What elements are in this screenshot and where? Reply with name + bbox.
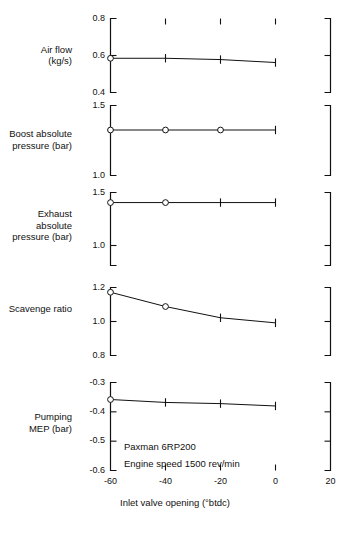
marker-exhaust-absolute-pressure-1	[163, 200, 169, 206]
ytick-label-pumping-mep-0: -0.6	[79, 465, 105, 475]
ytick-label-exhaust-absolute-pressure-0: 1.0	[79, 240, 105, 250]
ylabel-boost-absolute-pressure: Boost absolutepressure (bar)	[0, 128, 72, 151]
ylabel-exhaust-absolute-pressure: Exhaust absolutepressure (bar)	[0, 208, 72, 243]
ytick-label-scavenge-ratio-0: 0.8	[79, 350, 105, 360]
ylabel-pumping-mep: PumpingMEP (bar)	[0, 411, 72, 434]
ytick-label-exhaust-absolute-pressure-1: 1.5	[79, 187, 105, 197]
marker-boost-absolute-pressure-2	[218, 127, 224, 133]
ytick-label-pumping-mep-1: -0.5	[79, 435, 105, 445]
x-axis-title: Inlet valve opening (°btdc)	[0, 497, 350, 508]
ytick-label-pumping-mep-2: -0.4	[79, 406, 105, 416]
panel-exhaust-absolute-pressure	[108, 193, 331, 266]
ytick-label-scavenge-ratio-2: 1.2	[79, 282, 105, 292]
ytick-label-air-flow-1: 0.6	[79, 50, 105, 60]
ylabel-line-2: pressure (bar)	[0, 140, 72, 152]
xtick-label-2: -20	[206, 476, 236, 486]
marker-scavenge-ratio-1	[163, 304, 169, 310]
ylabel-line-2: MEP (bar)	[0, 423, 72, 435]
annotation-1: Engine speed 1500 rev/min	[124, 458, 240, 469]
ylabel-line-1: Exhaust absolute	[0, 208, 72, 231]
marker-boost-absolute-pressure-1	[163, 127, 169, 133]
multi-panel-chart: 0.40.60.8Air flow(kg/s)1.01.5Boost absol…	[0, 0, 350, 537]
ylabel-scavenge-ratio: Scavenge ratio	[0, 303, 72, 315]
ylabel-air-flow: Air flow(kg/s)	[0, 44, 72, 67]
right-axis-boost-absolute-pressure	[325, 106, 331, 176]
ytick-label-air-flow-0: 0.4	[79, 87, 105, 97]
ytick-label-boost-absolute-pressure-0: 1.0	[79, 170, 105, 180]
ytick-label-boost-absolute-pressure-1: 1.5	[79, 100, 105, 110]
ylabel-line-1: Scavenge ratio	[0, 303, 72, 315]
right-axis-pumping-mep	[325, 383, 331, 471]
series-line-air-flow	[111, 58, 276, 62]
right-axis-exhaust-absolute-pressure	[325, 193, 331, 266]
panel-scavenge-ratio	[108, 288, 331, 356]
xtick-label-4: 20	[316, 476, 346, 486]
chart-canvas	[0, 0, 350, 537]
marker-exhaust-absolute-pressure-0	[108, 200, 114, 206]
ytick-label-air-flow-2: 0.8	[79, 13, 105, 23]
ytick-label-scavenge-ratio-1: 1.0	[79, 316, 105, 326]
marker-pumping-mep-0	[108, 397, 114, 403]
left-axis-boost-absolute-pressure	[111, 106, 117, 176]
series-line-pumping-mep	[111, 400, 276, 406]
left-axis-pumping-mep	[111, 383, 117, 471]
panel-boost-absolute-pressure	[108, 106, 331, 176]
xtick-label-3: 0	[261, 476, 291, 486]
marker-air-flow-0	[108, 55, 114, 61]
series-line-scavenge-ratio	[111, 292, 276, 323]
ylabel-line-2: pressure (bar)	[0, 231, 72, 243]
marker-boost-absolute-pressure-0	[108, 127, 114, 133]
ytick-label-pumping-mep-3: -0.3	[79, 377, 105, 387]
annotation-0: Paxman 6RP200	[124, 441, 196, 452]
ylabel-line-1: Pumping	[0, 411, 72, 423]
xtick-label-0: -60	[96, 476, 126, 486]
ylabel-line-1: Air flow	[0, 44, 72, 56]
marker-scavenge-ratio-0	[108, 289, 114, 295]
ylabel-line-2: (kg/s)	[0, 55, 72, 67]
xtick-label-1: -40	[151, 476, 181, 486]
panel-air-flow	[108, 19, 331, 93]
ylabel-line-1: Boost absolute	[0, 128, 72, 140]
